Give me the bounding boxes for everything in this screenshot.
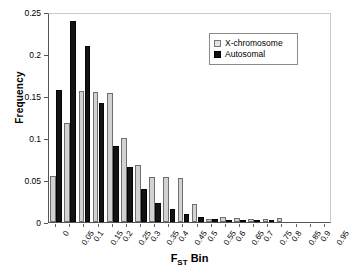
x-axis-tick-mark <box>98 224 99 227</box>
bar-x-chromosome <box>277 218 283 222</box>
bar-x-chromosome <box>79 91 85 222</box>
x-axis-tick-mark <box>182 224 183 227</box>
x-axis-title-subscript: ST <box>177 258 187 267</box>
bar-autosomal <box>127 167 133 222</box>
bar-autosomal <box>170 209 176 222</box>
x-axis-tick-mark <box>281 224 282 227</box>
x-axis-tick-mark <box>253 224 254 227</box>
bar-x-chromosome <box>93 92 99 222</box>
x-axis-tick-label: 0.4 <box>177 229 191 243</box>
chart-legend: X-chromosome Autosomal <box>209 33 298 65</box>
bar-group <box>318 14 332 222</box>
bar-x-chromosome <box>220 217 226 222</box>
x-axis-tick-mark <box>83 224 84 227</box>
bar-group <box>191 14 205 222</box>
x-axis-tick-mark <box>225 224 226 227</box>
x-axis-tick-label: 0.95 <box>335 229 351 247</box>
bar-group <box>77 14 91 222</box>
x-axis-tick-mark <box>211 224 212 227</box>
bar-group <box>176 14 190 222</box>
bar-group <box>63 14 77 222</box>
x-axis-tick-mark <box>267 224 268 227</box>
x-axis-tick-label: 0.8 <box>290 229 304 243</box>
legend-label-x-chromosome: X-chromosome <box>225 38 283 48</box>
x-axis-title-tail: Bin <box>188 252 209 264</box>
x-axis-tick-mark <box>310 224 311 227</box>
x-axis-title: FST Bin <box>48 252 331 267</box>
bar-x-chromosome <box>192 204 198 222</box>
y-axis-tick-label: 0.05 <box>24 176 41 186</box>
bar-x-chromosome <box>263 219 269 222</box>
bar-autosomal <box>254 220 260 222</box>
bar-autosomal <box>198 217 204 222</box>
legend-swatch-icon-autosomal <box>214 51 221 58</box>
bar-autosomal <box>269 220 275 222</box>
x-axis-tick-mark <box>296 224 297 227</box>
bar-autosomal <box>56 90 62 222</box>
y-axis-tick-label: 0.1 <box>29 134 41 144</box>
bar-x-chromosome <box>178 178 184 222</box>
bar-x-chromosome <box>121 138 127 222</box>
bar-x-chromosome <box>50 176 56 222</box>
bar-autosomal <box>85 46 91 222</box>
legend-swatch-icon-x-chromosome <box>214 40 221 47</box>
bar-group <box>148 14 162 222</box>
x-axis-tick-mark <box>126 224 127 227</box>
bar-autosomal <box>155 203 161 222</box>
x-axis-tick-mark <box>197 224 198 227</box>
x-axis-tick-mark <box>239 224 240 227</box>
x-axis-tick-mark <box>55 224 56 227</box>
bar-group <box>304 14 318 222</box>
bar-group <box>49 14 63 222</box>
x-axis-tick-label: 0.1 <box>92 229 106 243</box>
y-axis-tick-label: 0 <box>36 218 41 228</box>
bar-x-chromosome <box>234 218 240 222</box>
x-axis-tick-label: 0.5 <box>205 229 219 243</box>
bar-x-chromosome <box>64 123 70 222</box>
bar-group <box>106 14 120 222</box>
legend-label-autosomal: Autosomal <box>225 49 265 59</box>
y-axis-tick-label: 0.25 <box>24 8 41 18</box>
x-axis-tick-mark <box>140 224 141 227</box>
x-axis-tick-mark <box>324 224 325 227</box>
bar-x-chromosome <box>206 219 212 222</box>
bar-autosomal <box>141 189 147 222</box>
bar-autosomal <box>212 219 218 222</box>
x-axis-tick-mark <box>69 224 70 227</box>
bar-autosomal <box>184 214 190 222</box>
x-axis-tick-mark <box>112 224 113 227</box>
bar-group <box>162 14 176 222</box>
x-axis-tick-mark <box>168 224 169 227</box>
bar-x-chromosome <box>107 93 113 222</box>
x-axis-tick-label: 0 <box>61 229 71 238</box>
bar-x-chromosome <box>135 165 141 222</box>
y-axis-labels: 00.050.10.150.20.25 <box>0 0 48 224</box>
y-axis-tick-label: 0.15 <box>24 92 41 102</box>
bar-group <box>120 14 134 222</box>
bar-autosomal <box>99 103 105 222</box>
y-axis-tick-label: 0.2 <box>29 50 41 60</box>
x-axis-tick-label: 0.7 <box>262 229 276 243</box>
legend-item-autosomal: Autosomal <box>214 49 293 59</box>
bar-autosomal <box>240 220 246 222</box>
bar-group <box>134 14 148 222</box>
bar-autosomal <box>226 220 232 222</box>
bar-group <box>91 14 105 222</box>
bar-x-chromosome <box>163 177 169 222</box>
legend-item-x-chromosome: X-chromosome <box>214 38 293 48</box>
x-axis-tick-mark <box>154 224 155 227</box>
bar-x-chromosome <box>248 219 254 222</box>
bar-autosomal <box>70 21 76 222</box>
bar-x-chromosome <box>149 177 155 222</box>
bar-autosomal <box>113 146 119 222</box>
